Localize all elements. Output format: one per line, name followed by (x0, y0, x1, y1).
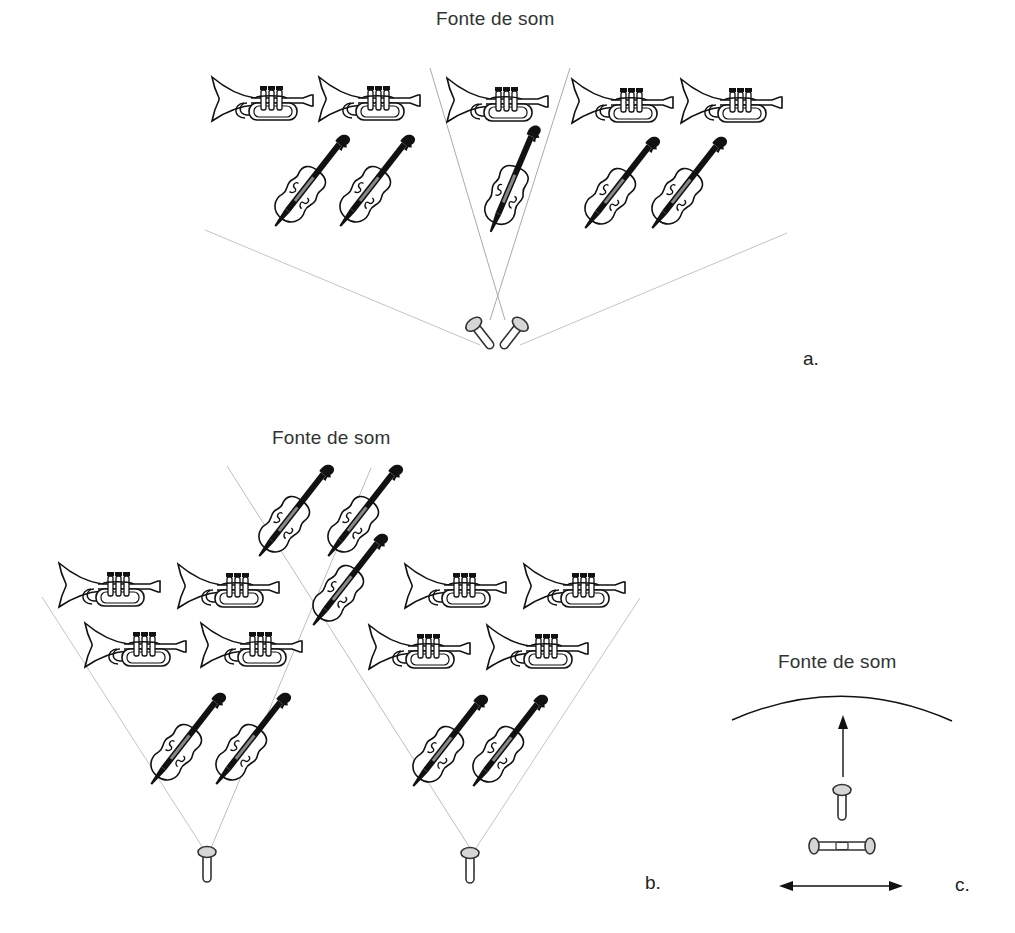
panel-a-letter: a. (803, 348, 819, 370)
cardioid-mic-right-icon (461, 848, 479, 884)
panel-c-letter: c. (955, 874, 970, 896)
pickup-line (42, 597, 203, 848)
panel-b-letter: b. (645, 872, 661, 894)
trumpet-icon (487, 625, 588, 669)
arrow-head-icon (779, 881, 793, 891)
trumpet-icon (524, 564, 625, 608)
crossed-mic-pair-icon (463, 314, 531, 353)
trumpet-icon (178, 564, 279, 608)
trumpet-icon (212, 77, 313, 121)
sound-source-arc (732, 696, 952, 721)
panel-c-title: Fonte de som (778, 651, 897, 673)
pickup-line (520, 233, 787, 345)
trumpet-icon (681, 79, 782, 123)
violin-icon (573, 127, 670, 238)
panel-a (205, 68, 787, 353)
panel-b (42, 455, 640, 883)
trumpet-icon (319, 77, 420, 121)
trumpet-icon (572, 79, 673, 123)
stereo-mic-technique-figure: Fonte de som a. Fonte de som b. Fonte de… (0, 0, 1015, 933)
violin-icon (247, 455, 344, 566)
panel-b-title: Fonte de som (272, 427, 391, 449)
figure-eight-mic-icon (809, 838, 875, 854)
trumpet-icon (85, 623, 186, 667)
trumpet-icon (201, 623, 302, 667)
trumpet-icon (59, 563, 160, 607)
trumpet-icon (369, 625, 470, 669)
violin-icon (452, 112, 574, 244)
trumpet-icon (447, 78, 548, 122)
pickup-line (205, 230, 480, 345)
diagram-canvas (0, 0, 1015, 933)
panel-c (732, 696, 952, 891)
arrow-head-icon (889, 881, 903, 891)
cardioid-mic-left-icon (198, 847, 216, 883)
panel-a-title: Fonte de som (436, 8, 555, 30)
arrow-head-icon (838, 715, 848, 729)
trumpet-icon (405, 564, 506, 608)
mid-mic-icon (833, 785, 851, 821)
